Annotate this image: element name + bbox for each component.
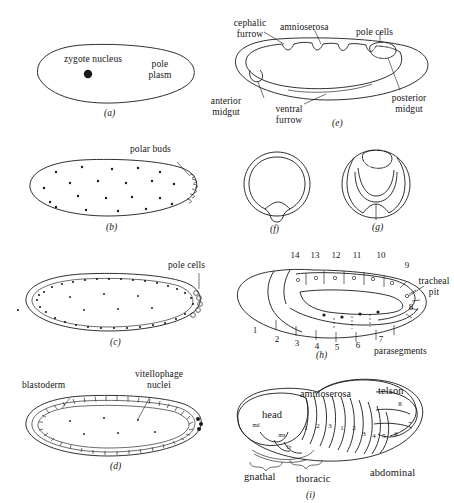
parasegment-13: 13	[308, 250, 322, 260]
panel-f: (f)	[234, 148, 320, 236]
label-pole-cells-c: pole cells	[168, 260, 205, 271]
label-anterior-midgut: anteriormidgut	[200, 96, 252, 117]
label-vitellophage-nuclei: vitellophagenuclei	[126, 369, 192, 390]
abdominal-4: 4	[370, 432, 378, 440]
parasegment-14: 14	[288, 250, 302, 260]
label-ventral-furrow: ventralfurrow	[266, 104, 312, 125]
panel-g-letter: (g)	[372, 222, 383, 232]
label-posterior-midgut: posteriormidgut	[380, 93, 438, 114]
parasegment-12: 12	[329, 250, 343, 260]
panel-h-letter: (h)	[316, 350, 327, 360]
abdominal-8: 8	[396, 400, 404, 408]
panel-b: polar buds (b)	[20, 150, 215, 235]
parasegment-10: 10	[374, 250, 388, 260]
label-polar-buds: polar buds	[130, 144, 171, 155]
thoracic-1: 1	[302, 424, 310, 432]
peripheral-nuclei	[17, 278, 194, 329]
abdominal-7: 7	[406, 420, 414, 428]
panel-d: blastoderm vitellophagenuclei (d)	[18, 385, 218, 480]
parasegment-8: 8	[406, 302, 416, 312]
parasegment-3: 3	[292, 338, 302, 348]
vitellophage-leader	[138, 397, 150, 419]
panel-f-letter: (f)	[270, 224, 279, 234]
label-tracheal-pit: trachealpit	[414, 276, 454, 297]
abdominal-2: 2	[350, 424, 358, 432]
zygote-nucleus-dot	[84, 70, 92, 78]
parasegment-7: 7	[376, 334, 386, 344]
label-abdominal: abdominal	[370, 468, 415, 479]
panel-i-letter: (i)	[306, 490, 315, 500]
label-pole-cells-e: pole cells	[356, 27, 393, 38]
parasegment-11: 11	[350, 250, 364, 260]
label-pole-plasm: poleplasm	[138, 59, 182, 80]
panel-e: cephalicfurrow amnioserosa pole cells an…	[228, 8, 443, 130]
panel-i: head amnioserosa telson gnathal thoracic…	[224, 366, 444, 498]
parasegment-9: 9	[402, 260, 412, 270]
thoracic-2: 2	[314, 422, 322, 430]
panel-h: 14 13 12 11 10 9 1 2 3 4 5 6 7 8 trachea…	[228, 252, 443, 362]
pole-cells-cluster-e	[370, 42, 396, 59]
label-head: head	[262, 410, 282, 421]
label-amnioserosa-i: amnioserosa	[300, 389, 351, 400]
label-parasegments: parasegments	[374, 346, 427, 357]
panel-a: zygote nucleus poleplasm (a)	[20, 28, 210, 118]
panel-g: (g)	[330, 146, 422, 236]
pole-cells-d	[196, 417, 203, 431]
abdominal-1: 1	[338, 424, 346, 432]
parasegment-1: 1	[250, 325, 260, 335]
vitellophage-nuclei-dots	[69, 417, 156, 435]
label-zygote-nucleus: zygote nucleus	[48, 54, 138, 65]
panel-c-letter: (c)	[110, 337, 121, 347]
panel-d-letter: (d)	[110, 461, 121, 471]
parasegment-5: 5	[332, 342, 342, 352]
gnathal-mx: mx	[276, 432, 288, 438]
abdominal-6: 6	[392, 430, 400, 438]
panel-c: pole cells (c)	[18, 265, 218, 350]
label-blastoderm: blastoderm	[22, 380, 65, 391]
panel-b-letter: (b)	[106, 222, 117, 232]
blastoderm-cells	[39, 396, 193, 455]
label-telson: telson	[378, 386, 404, 397]
abdominal-5: 5	[380, 432, 388, 440]
gnathal-md: md	[250, 422, 262, 428]
gnathal-lb: lb	[284, 444, 294, 450]
panel-f-drawing	[234, 148, 320, 236]
panel-b-drawing	[20, 150, 215, 235]
label-amnioserosa-e: amnioserosa	[280, 22, 329, 33]
pole-cells-cluster-g	[362, 149, 391, 169]
abdominal-3: 3	[360, 430, 368, 438]
polar-buds-leader	[177, 162, 190, 176]
parasegment-2: 2	[272, 334, 282, 344]
panel-a-letter: (a)	[104, 108, 115, 118]
thoracic-3: 3	[326, 422, 334, 430]
parasegment-6: 6	[353, 340, 363, 350]
panel-e-letter: (e)	[332, 118, 343, 128]
label-thoracic: thoracic	[296, 474, 331, 485]
label-gnathal: gnathal	[244, 472, 276, 483]
label-cephalic-furrow: cephalicfurrow	[224, 18, 276, 39]
